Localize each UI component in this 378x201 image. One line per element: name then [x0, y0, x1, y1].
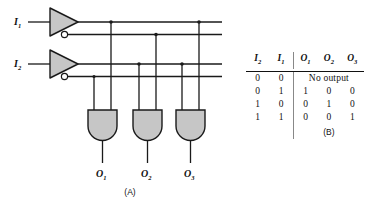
cell-i1: 0	[269, 98, 293, 111]
junction-dots	[92, 20, 200, 78]
cell-o1: 0	[293, 98, 317, 111]
cell-i1: 1	[269, 85, 293, 98]
cell-o1: 1	[293, 85, 317, 98]
input-leads	[28, 22, 50, 64]
cell-i2: 1	[246, 98, 269, 111]
logic-circuit-diagram: I1 I2 O1 O2 O3 (A)	[0, 0, 238, 201]
header-o2: O2	[317, 52, 340, 69]
header-i1: I1	[269, 52, 293, 69]
output-label-o1: O1	[96, 168, 106, 181]
output-label-o2: O2	[141, 168, 152, 181]
header-o1: O1	[293, 52, 317, 69]
figure-root: I1 I2 O1 O2 O3 (A) I2 I1 O1 O2 O3	[0, 0, 378, 201]
table-row: 1 1 0 0 1	[246, 111, 364, 124]
and-gate-2-body	[133, 110, 162, 141]
and-gate-1-body	[88, 110, 117, 141]
and-gate-3-body	[176, 110, 205, 141]
and-gate-3	[176, 110, 205, 163]
spacer-cell	[246, 124, 269, 139]
junction-dot	[180, 62, 184, 66]
truth-table-body: 0 0 No output 0 1 1 0 0 1 0 0 1 0	[246, 71, 364, 139]
junction-dot	[109, 20, 113, 24]
inverter-2	[50, 50, 78, 80]
cell-o2: 0	[317, 111, 340, 124]
cell-i2: 0	[246, 85, 269, 98]
truth-table-header-row: I2 I1 O1 O2 O3	[246, 52, 364, 69]
cell-o3: 1	[341, 111, 364, 124]
header-i2: I2	[246, 52, 269, 69]
cell-i1: 0	[269, 71, 293, 85]
input-label-i1: I1	[13, 16, 21, 29]
header-o3: O3	[341, 52, 364, 69]
spacer-cell	[269, 124, 293, 139]
cell-o1: 0	[293, 111, 317, 124]
junction-dot	[137, 62, 141, 66]
cell-i2: 0	[246, 71, 269, 85]
drop-wires	[94, 22, 199, 110]
inverter-1	[50, 8, 78, 38]
junction-dot	[197, 20, 201, 24]
inverter-2-bubble	[61, 73, 67, 79]
table-row: 0 0 No output	[246, 71, 364, 85]
table-row: 1 0 0 1 0	[246, 98, 364, 111]
cell-i2: 1	[246, 111, 269, 124]
truth-table: I2 I1 O1 O2 O3 0 0 No output 0	[246, 52, 364, 139]
and-gate-1	[88, 110, 117, 163]
cell-i1: 1	[269, 111, 293, 124]
truth-table-panel: I2 I1 O1 O2 O3 0 0 No output 0	[246, 52, 370, 139]
junction-dot	[154, 33, 158, 37]
table-row: 0 1 1 0 0	[246, 85, 364, 98]
input-label-i2: I2	[13, 58, 22, 71]
cell-o3: 0	[341, 85, 364, 98]
cell-no-output: No output	[293, 71, 364, 85]
cell-o2: 0	[317, 85, 340, 98]
cell-o3: 0	[341, 98, 364, 111]
output-label-o3: O3	[184, 168, 195, 181]
and-gate-2	[133, 110, 162, 163]
panel-a-caption: (A)	[124, 187, 136, 197]
inverter-1-bubble	[61, 31, 67, 37]
panel-b-caption-row: (B)	[246, 124, 364, 139]
junction-dot	[92, 75, 95, 78]
panel-b-caption: (B)	[293, 124, 364, 139]
cell-o2: 1	[317, 98, 340, 111]
truth-table-head: I2 I1 O1 O2 O3	[246, 52, 364, 71]
